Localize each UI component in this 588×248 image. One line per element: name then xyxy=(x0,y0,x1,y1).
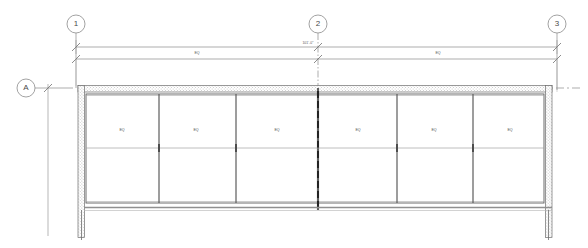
grid-bubble-A-label: A xyxy=(23,84,28,92)
panel-eq-label: EQ xyxy=(119,129,124,133)
grid-bubble-2-label: 2 xyxy=(316,20,320,28)
panel-eq-label: EQ xyxy=(431,129,436,133)
storefront-frame xyxy=(86,94,544,203)
plan-drawing-canvas xyxy=(0,0,588,248)
eq-dimension-right: EQ xyxy=(435,52,440,56)
panel-eq-label: EQ xyxy=(355,129,360,133)
eq-dimension-left: EQ xyxy=(194,52,199,56)
left-witness-line xyxy=(44,84,52,236)
panel-eq-label: EQ xyxy=(274,129,279,133)
overall-dimension-line xyxy=(72,40,561,54)
panel-eq-label: EQ xyxy=(193,129,198,133)
overall-dimension-text: 101'-0" xyxy=(302,42,313,45)
drawing-sheet: 1 2 3 A 101'-0" EQ EQ EQ EQ EQ EQ EQ EQ xyxy=(0,0,588,248)
grid-bubble-1-label: 1 xyxy=(74,20,78,28)
horizontal-rail xyxy=(86,144,544,152)
eq-dimension-line xyxy=(72,55,561,63)
wall-top-band xyxy=(78,86,552,93)
panel-eq-label: EQ xyxy=(507,129,512,133)
grid-bubble-3-label: 3 xyxy=(555,20,559,28)
